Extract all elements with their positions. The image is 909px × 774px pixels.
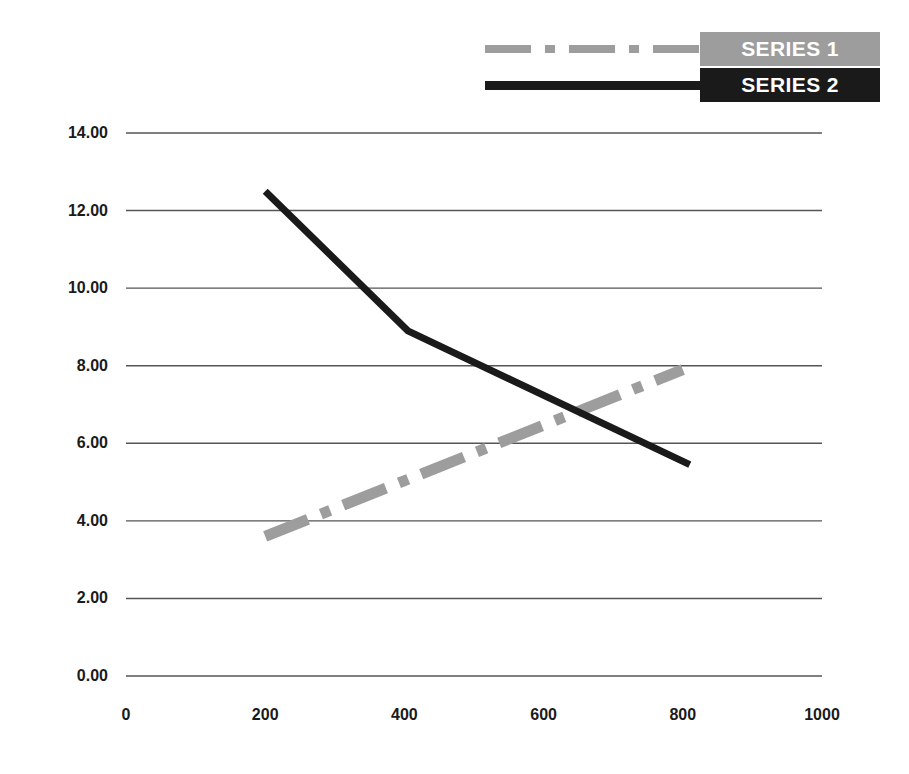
- chart-legend: SERIES 1 SERIES 2: [470, 32, 890, 104]
- legend-swatch-series-2: [485, 81, 717, 89]
- legend-swatch-series-1: [485, 45, 717, 53]
- x-axis-tick-label: 800: [638, 706, 728, 724]
- legend-item-series-2[interactable]: SERIES 2: [470, 68, 890, 102]
- x-axis-tick-label: 0: [81, 706, 171, 724]
- x-axis-tick-label: 400: [359, 706, 449, 724]
- line-chart: 14.0012.0010.008.006.004.002.000.00 0200…: [0, 0, 909, 774]
- x-axis-tick-label: 600: [499, 706, 589, 724]
- legend-label-series-1: SERIES 1: [700, 32, 880, 66]
- x-axis-labels: 02004006008001000: [0, 0, 909, 774]
- x-axis-tick-label: 1000: [777, 706, 867, 724]
- x-axis-tick-label: 200: [220, 706, 310, 724]
- legend-item-series-1[interactable]: SERIES 1: [470, 32, 890, 66]
- legend-label-series-2: SERIES 2: [700, 68, 880, 102]
